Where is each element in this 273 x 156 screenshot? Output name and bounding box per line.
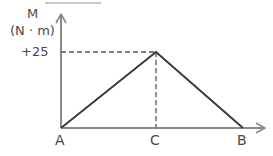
moment-diagram-line: [61, 52, 243, 128]
bending-moment-figure: M (N · m) +25 A C B: [0, 0, 273, 156]
x-axis-tick-label-b: B: [237, 133, 247, 147]
y-axis-tick-label-25: +25: [21, 45, 48, 58]
x-axis-tick-label-c: C: [150, 133, 160, 147]
x-axis-tick-label-a: A: [55, 133, 65, 147]
y-axis-name-label: M: [27, 7, 38, 20]
y-axis-units-label: (N · m): [10, 24, 55, 37]
